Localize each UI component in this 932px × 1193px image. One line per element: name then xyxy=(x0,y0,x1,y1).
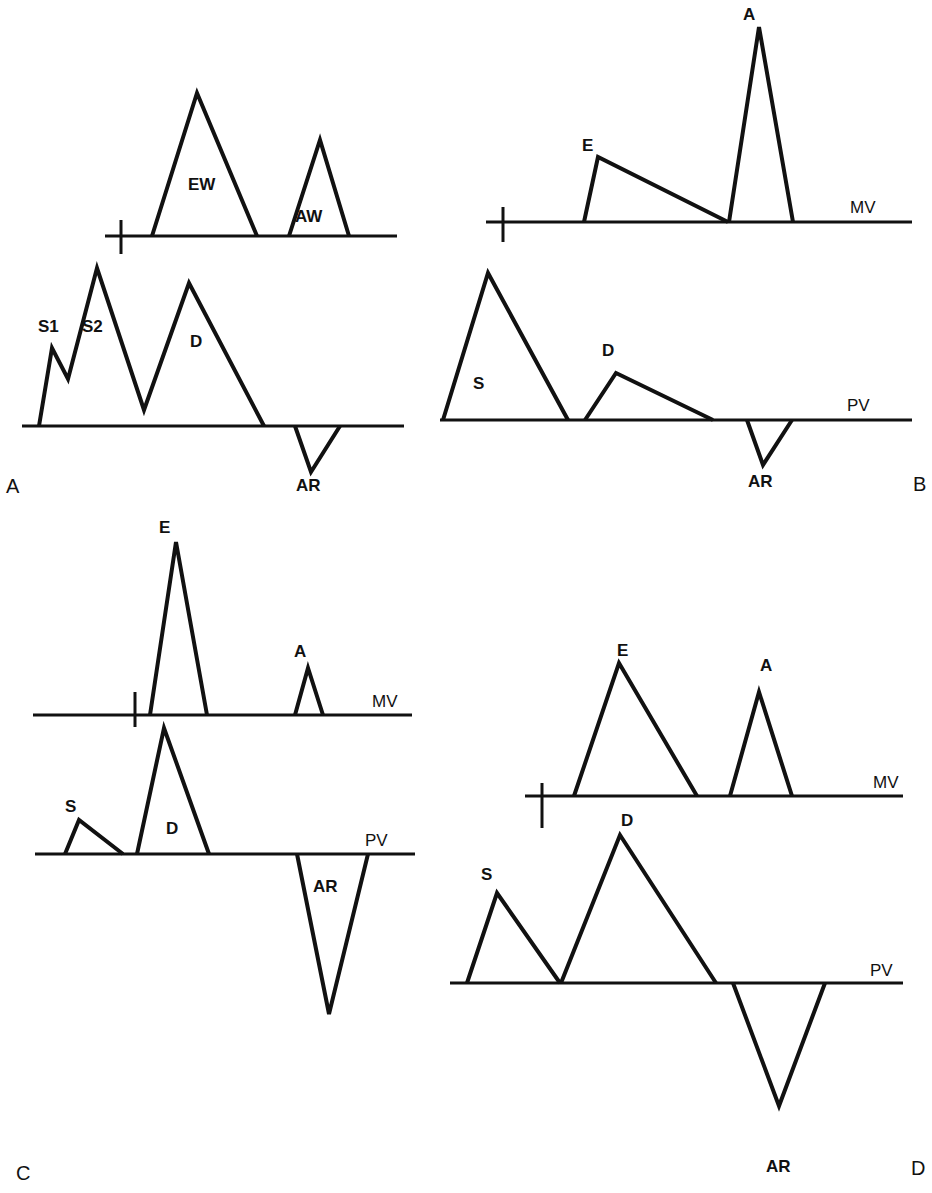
panel-a-s1-label: S1 xyxy=(38,317,59,336)
panel-d-e-label: E xyxy=(617,641,628,660)
panel-b-pv-label: PV xyxy=(847,396,870,415)
panel-a: EW AW S1 S2 D AR A xyxy=(6,93,404,497)
panel-c-s-wave xyxy=(65,820,123,854)
panel-b: E A MV S D AR PV B xyxy=(440,5,926,495)
panel-a-s2-label: S2 xyxy=(82,317,103,336)
panel-c-letter: C xyxy=(16,1162,30,1184)
panel-c: E A MV S D AR PV C xyxy=(16,518,415,1184)
panel-d: E A MV S D AR PV D xyxy=(450,641,925,1179)
panel-a-d-label: D xyxy=(190,332,202,351)
panel-d-ar-label: AR xyxy=(766,1157,791,1176)
panel-b-letter: B xyxy=(913,473,926,495)
panel-c-ar-label: AR xyxy=(313,877,338,896)
panel-b-d-wave xyxy=(585,373,713,420)
panel-a-ar-wave xyxy=(295,426,340,472)
panel-d-ar-wave xyxy=(733,983,825,1106)
panel-c-e-label: E xyxy=(159,518,170,537)
panel-c-pv-label: PV xyxy=(365,831,388,850)
panel-d-a-wave xyxy=(730,692,792,796)
panel-c-s-label: S xyxy=(65,797,76,816)
panel-b-s-label: S xyxy=(473,374,484,393)
panel-b-s-wave xyxy=(443,273,568,420)
panel-b-e-label: E xyxy=(582,136,593,155)
panel-b-ar-label: AR xyxy=(748,472,773,491)
panel-d-letter: D xyxy=(911,1157,925,1179)
panel-c-a-label: A xyxy=(294,642,306,661)
panel-c-d-label: D xyxy=(166,819,178,838)
panel-d-pv-label: PV xyxy=(870,961,893,980)
panel-b-e-wave xyxy=(584,157,728,222)
panel-b-mv-label: MV xyxy=(850,198,876,217)
panel-a-ew-wave xyxy=(152,93,257,236)
panel-d-mv-label: MV xyxy=(873,773,899,792)
panel-d-a-label: A xyxy=(760,656,772,675)
panel-d-d-wave xyxy=(561,835,716,983)
panel-b-d-label: D xyxy=(602,341,614,360)
panel-a-systolic-diastolic-wave xyxy=(39,268,264,426)
panel-b-ar-wave xyxy=(747,420,792,465)
panel-d-s-wave xyxy=(467,893,560,983)
panel-a-ew-label: EW xyxy=(188,175,216,194)
panel-a-ar-label: AR xyxy=(296,476,321,495)
panel-a-aw-label: AW xyxy=(295,207,323,226)
panel-d-s-label: S xyxy=(481,865,492,884)
panel-a-letter: A xyxy=(6,475,20,497)
panel-b-a-wave xyxy=(729,27,793,222)
panel-b-a-label: A xyxy=(743,5,755,24)
panel-c-e-wave xyxy=(150,542,207,715)
panel-c-mv-label: MV xyxy=(372,692,398,711)
panel-d-d-label: D xyxy=(621,811,633,830)
doppler-flow-diagram: EW AW S1 S2 D AR A E A MV S D AR PV B xyxy=(0,0,932,1193)
panel-c-a-wave xyxy=(295,668,323,715)
panel-d-e-wave xyxy=(574,663,697,796)
